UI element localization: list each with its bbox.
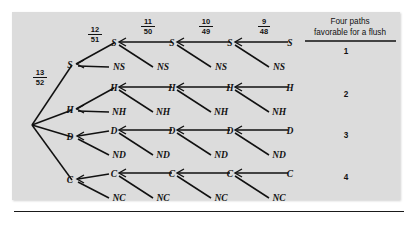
edge-C3-to-NC4 <box>235 176 269 198</box>
favorable-paths-header-line1: Four paths <box>330 17 369 26</box>
probability-fraction-9-48: 9 48 <box>258 17 270 36</box>
node-D-level4: D <box>286 126 294 136</box>
node-D-level0: D <box>66 132 74 142</box>
bottom-divider-rule <box>14 211 404 212</box>
node-S-level4: S <box>287 38 292 48</box>
node-S-level1: S <box>111 38 116 48</box>
node-NH-4: NH <box>271 107 287 117</box>
edge-C0-to-NC1 <box>78 182 109 198</box>
edge-S2-to-NS3 <box>177 45 211 67</box>
node-S-level2: S <box>169 38 174 48</box>
edge-H2-to-NH3 <box>177 90 211 112</box>
node-NC-3: NC <box>213 193 228 203</box>
node-NS-2: NS <box>156 62 169 72</box>
node-S-level0: S <box>67 60 72 70</box>
favorable-paths-header-line2: favorable for a flush <box>314 28 386 37</box>
node-H-level1: H <box>109 83 118 93</box>
path-number-1: 1 <box>344 47 349 56</box>
node-C-level3: C <box>227 169 234 179</box>
node-H-level0: H <box>65 105 74 115</box>
node-C-level2: C <box>169 169 176 179</box>
path-number-column: 1 2 3 4 <box>344 47 349 182</box>
favorable-paths-header: Four paths favorable for a flush <box>305 17 396 41</box>
node-NC-1: NC <box>111 193 126 203</box>
fraction-12-51-numerator: 12 <box>91 25 99 34</box>
fraction-10-49-denominator: 49 <box>202 27 210 36</box>
path-number-2: 2 <box>344 90 349 99</box>
edge-S3-to-NS4 <box>235 45 269 67</box>
node-ND-4: ND <box>271 150 286 160</box>
node-C-level1: C <box>111 169 118 179</box>
fraction-9-48-numerator: 9 <box>262 17 266 26</box>
fraction-10-49-numerator: 10 <box>202 17 210 26</box>
path-number-4: 4 <box>344 173 349 182</box>
node-NS-4: NS <box>272 62 285 72</box>
figure-root: S S S S S NS NS NS NS H H H H H NH NH NH… <box>0 0 418 225</box>
arrowhead-S0 <box>77 60 84 68</box>
probability-fraction-13-52: 13 52 <box>33 68 47 87</box>
node-ND-3: ND <box>213 150 228 160</box>
node-ND-1: ND <box>111 150 126 160</box>
edge-D3-to-ND4 <box>235 133 269 155</box>
node-H-level2: H <box>167 83 176 93</box>
node-D-level2: D <box>168 126 176 136</box>
node-NH-1: NH <box>111 107 127 117</box>
edge-D2-to-ND3 <box>177 133 211 155</box>
node-H-level4: H <box>285 83 294 93</box>
probability-fraction-10-49: 10 49 <box>199 17 213 36</box>
probability-fraction-12-51: 12 51 <box>88 25 102 44</box>
fraction-9-48-denominator: 48 <box>260 27 268 36</box>
node-H-level3: H <box>225 83 234 93</box>
probability-tree-svg: S S S S S NS NS NS NS H H H H H NH NH NH… <box>0 0 418 225</box>
node-ND-2: ND <box>155 150 170 160</box>
node-D-level3: D <box>226 126 234 136</box>
node-C-level0: C <box>67 175 74 185</box>
node-NH-3: NH <box>213 107 229 117</box>
node-NH-2: NH <box>155 107 171 117</box>
edge-C2-to-NC3 <box>177 176 211 198</box>
node-S-level3: S <box>227 38 232 48</box>
fraction-12-51-denominator: 51 <box>91 35 99 44</box>
fraction-13-52-numerator: 13 <box>36 68 44 77</box>
fraction-13-52-denominator: 52 <box>36 78 44 87</box>
path-number-3: 3 <box>344 131 349 140</box>
probability-fraction-11-50: 11 50 <box>141 17 155 36</box>
node-NC-2: NC <box>155 193 170 203</box>
arrowhead-H0 <box>77 105 84 113</box>
node-NS-1: NS <box>112 62 125 72</box>
edge-H3-to-NH4 <box>235 90 269 112</box>
node-NC-4: NC <box>271 193 286 203</box>
fraction-11-50-denominator: 50 <box>144 27 152 36</box>
node-NS-3: NS <box>214 62 227 72</box>
node-C-level4: C <box>287 169 294 179</box>
edge-D0-to-ND1 <box>78 139 109 155</box>
fraction-11-50-numerator: 11 <box>144 17 152 26</box>
node-D-level1: D <box>110 126 118 136</box>
